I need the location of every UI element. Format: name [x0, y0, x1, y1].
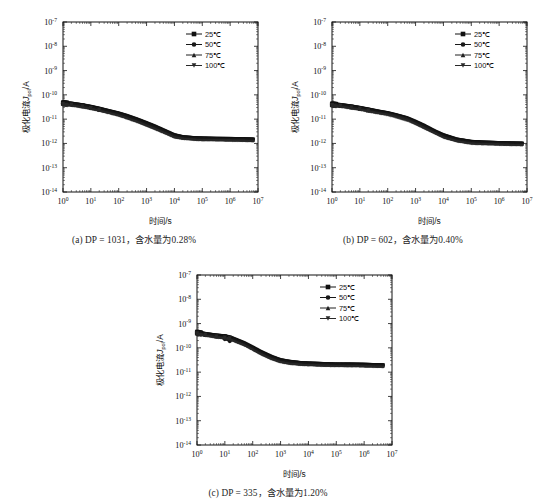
legend-item-25℃: 25℃ [320, 283, 355, 292]
panel-a-data [61, 100, 255, 142]
legend-item-50℃: 50℃ [320, 293, 355, 302]
svg-text:10-10: 10-10 [41, 90, 57, 100]
svg-text:107: 107 [522, 196, 533, 206]
series-100℃ [61, 102, 255, 143]
svg-text:101: 101 [219, 449, 230, 459]
svg-text:103: 103 [275, 449, 286, 459]
legend-item-75℃: 75℃ [455, 51, 490, 60]
svg-text:106: 106 [359, 449, 370, 459]
svg-text:105: 105 [197, 196, 208, 206]
legend-item-50℃: 50℃ [186, 40, 221, 49]
panel-b-caption: (b) DP = 602，含水量为0.40% [269, 232, 537, 246]
svg-text:75℃: 75℃ [339, 304, 355, 313]
svg-text:25℃: 25℃ [339, 283, 355, 292]
svg-text:10-9: 10-9 [313, 65, 326, 75]
y-axis-label: 极化电流Jpol/A [21, 81, 32, 133]
svg-text:100: 100 [58, 196, 69, 206]
svg-text:104: 104 [169, 196, 180, 206]
svg-text:10-9: 10-9 [44, 65, 57, 75]
svg-text:101: 101 [354, 196, 365, 206]
panel-a: 10010110210310410510610710-1410-1310-121… [0, 4, 268, 250]
svg-text:25℃: 25℃ [474, 30, 490, 39]
svg-text:10-11: 10-11 [176, 367, 192, 377]
svg-text:10-13: 10-13 [41, 163, 57, 173]
svg-text:105: 105 [331, 449, 342, 459]
x-axis-label: 时间/s [418, 216, 441, 226]
x-axis-label: 时间/s [149, 216, 172, 226]
svg-text:104: 104 [303, 449, 314, 459]
svg-text:50℃: 50℃ [474, 40, 490, 49]
svg-text:102: 102 [113, 196, 124, 206]
panel-c-legend: 25℃50℃75℃100℃ [320, 283, 359, 324]
svg-text:106: 106 [494, 196, 505, 206]
svg-text:10-14: 10-14 [175, 440, 191, 450]
svg-text:100℃: 100℃ [474, 61, 494, 70]
svg-text:10-7: 10-7 [313, 17, 326, 27]
svg-text:10-11: 10-11 [42, 114, 58, 124]
svg-text:104: 104 [438, 196, 449, 206]
svg-text:10-8: 10-8 [178, 294, 191, 304]
svg-text:100℃: 100℃ [339, 314, 359, 323]
legend-item-75℃: 75℃ [320, 304, 355, 313]
panel-b: 10010110210310410510610710-1410-1310-121… [269, 4, 537, 250]
legend-item-100℃: 100℃ [320, 314, 359, 323]
svg-text:100: 100 [327, 196, 338, 206]
svg-text:103: 103 [410, 196, 421, 206]
svg-text:105: 105 [466, 196, 477, 206]
svg-text:103: 103 [141, 196, 152, 206]
series-25℃ [195, 330, 385, 366]
svg-text:10-10: 10-10 [175, 343, 191, 353]
panel-b-plot: 10010110210310410510610710-1410-1310-121… [269, 4, 537, 232]
svg-text:10-9: 10-9 [178, 318, 191, 328]
plot-frame [197, 275, 392, 445]
svg-text:107: 107 [253, 196, 264, 206]
legend-item-25℃: 25℃ [186, 30, 221, 39]
panel-c-axes [197, 275, 392, 445]
x-axis-label: 时间/s [283, 469, 306, 479]
svg-text:50℃: 50℃ [339, 293, 355, 302]
panel-c-plot: 10010110210310410510610710-1410-1310-121… [134, 257, 402, 485]
svg-text:10-7: 10-7 [178, 270, 191, 280]
svg-text:10-7: 10-7 [44, 17, 57, 27]
svg-text:101: 101 [85, 196, 96, 206]
y-axis-label: 极化电流Jpol/A [155, 334, 166, 386]
svg-text:10-13: 10-13 [310, 163, 326, 173]
svg-text:106: 106 [225, 196, 236, 206]
panel-a-caption: (a) DP = 1031，含水量为0.28% [0, 232, 268, 246]
svg-text:102: 102 [382, 196, 393, 206]
svg-text:10-13: 10-13 [175, 416, 191, 426]
svg-text:75℃: 75℃ [205, 51, 221, 60]
legend-item-50℃: 50℃ [455, 40, 490, 49]
svg-text:25℃: 25℃ [205, 30, 221, 39]
svg-text:10-8: 10-8 [313, 41, 326, 51]
svg-text:10-14: 10-14 [41, 187, 57, 197]
svg-text:107: 107 [387, 449, 398, 459]
svg-text:10-12: 10-12 [175, 391, 191, 401]
panel-c: 10010110210310410510610710-1410-1310-121… [134, 257, 402, 503]
svg-text:102: 102 [247, 449, 258, 459]
svg-text:10-11: 10-11 [311, 114, 327, 124]
legend-item-75℃: 75℃ [186, 51, 221, 60]
panel-a-ticks: 10010110210310410510610710-1410-1310-121… [41, 17, 263, 206]
panel-c-data [195, 330, 385, 369]
panel-b-ticks: 10010110210310410510610710-1410-1310-121… [310, 17, 532, 206]
svg-text:10-8: 10-8 [44, 41, 57, 51]
svg-text:100: 100 [192, 449, 203, 459]
legend-item-25℃: 25℃ [455, 30, 490, 39]
panel-a-legend: 25℃50℃75℃100℃ [186, 30, 225, 71]
svg-text:50℃: 50℃ [205, 40, 221, 49]
y-axis-label: 极化电流Jpol/A [290, 81, 301, 133]
panel-a-plot: 10010110210310410510610710-1410-1310-121… [0, 4, 268, 232]
panel-c-caption: (c) DP = 335，含水量为1.20% [134, 485, 402, 499]
svg-text:10-12: 10-12 [41, 138, 57, 148]
svg-text:100℃: 100℃ [205, 61, 225, 70]
legend-item-100℃: 100℃ [186, 61, 225, 70]
figure-polarization-current: 10010110210310410510610710-1410-1310-121… [0, 0, 537, 503]
svg-text:10-12: 10-12 [310, 138, 326, 148]
panel-b-legend: 25℃50℃75℃100℃ [455, 30, 494, 71]
svg-text:10-14: 10-14 [310, 187, 326, 197]
svg-text:10-10: 10-10 [310, 90, 326, 100]
panel-b-data [330, 101, 524, 146]
svg-text:75℃: 75℃ [474, 51, 490, 60]
legend-item-100℃: 100℃ [455, 61, 494, 70]
